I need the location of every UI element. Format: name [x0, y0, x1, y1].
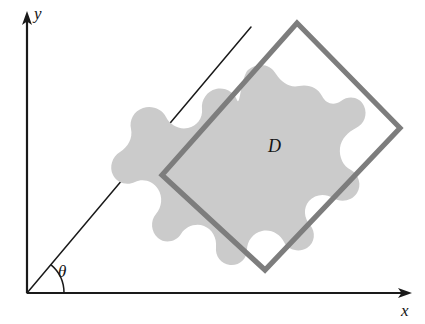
region-d-label: D [267, 136, 281, 156]
theta-label: θ [58, 262, 66, 281]
y-axis [22, 11, 32, 293]
figure-canvas: y x θ D [0, 0, 425, 324]
x-axis [27, 288, 412, 298]
geometry-diagram: y x θ D [0, 0, 425, 324]
y-axis-label: y [32, 4, 42, 23]
region-d-shape [111, 65, 365, 265]
x-axis-label: x [400, 301, 409, 320]
